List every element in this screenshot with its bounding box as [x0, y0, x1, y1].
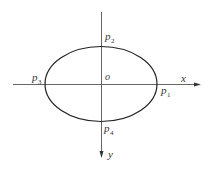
svg-text:p: p	[31, 71, 38, 83]
svg-text:2: 2	[111, 37, 115, 45]
svg-text:p: p	[160, 84, 167, 96]
svg-text:3: 3	[38, 78, 42, 86]
point-label-p1: p 1	[160, 84, 171, 99]
svg-text:p: p	[103, 122, 110, 134]
svg-text:1: 1	[167, 91, 171, 99]
y-axis-arrow-icon	[100, 151, 104, 158]
x-axis-label: x	[180, 72, 186, 84]
point-label-p2: p 2	[104, 30, 115, 45]
svg-text:4: 4	[110, 129, 114, 137]
x-axis-arrow-icon	[194, 83, 201, 87]
y-axis-label: y	[107, 148, 113, 160]
svg-text:p: p	[104, 30, 111, 42]
origin-label: o	[105, 71, 110, 82]
ellipse-diagram: x y o p 2 p 3 p 1 p 4	[0, 0, 209, 170]
point-label-p3: p 3	[31, 71, 42, 86]
point-label-p4: p 4	[103, 122, 114, 137]
